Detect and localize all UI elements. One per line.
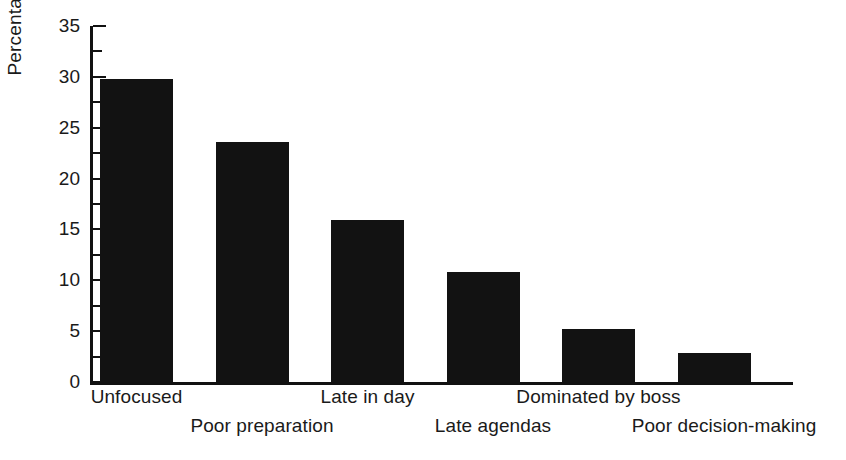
- y-tick-label: 35: [59, 15, 80, 37]
- bar: [678, 353, 751, 382]
- y-tick-major: [93, 76, 106, 78]
- bar-chart: Percentage 05101520253035 UnfocusedPoor …: [0, 0, 846, 460]
- y-tick-label: 30: [59, 66, 80, 88]
- bar: [447, 272, 520, 382]
- y-tick-major: [93, 25, 106, 27]
- x-axis-category-label: Late in day: [320, 386, 414, 408]
- x-axis-category-label: Unfocused: [91, 386, 183, 408]
- bar: [562, 329, 635, 382]
- y-tick-label: 15: [59, 218, 80, 240]
- y-tick-label: 0: [69, 371, 80, 393]
- bar: [331, 220, 404, 382]
- y-axis-title: Percentage: [4, 0, 34, 126]
- x-axis-line: [90, 382, 793, 385]
- y-tick-label: 10: [59, 269, 80, 291]
- x-axis-category-label: Late agendas: [435, 415, 551, 437]
- y-tick-label: 20: [59, 168, 80, 190]
- y-tick-minor: [93, 50, 102, 52]
- plot-area: 05101520253035: [90, 26, 793, 382]
- y-tick-label: 5: [69, 320, 80, 342]
- y-tick-label: 25: [59, 117, 80, 139]
- x-axis-category-label: Poor preparation: [190, 415, 333, 437]
- bar: [100, 79, 173, 382]
- x-axis-category-label: Poor decision-making: [632, 415, 817, 437]
- x-axis-category-label: Dominated by boss: [516, 386, 680, 408]
- bar: [216, 142, 289, 382]
